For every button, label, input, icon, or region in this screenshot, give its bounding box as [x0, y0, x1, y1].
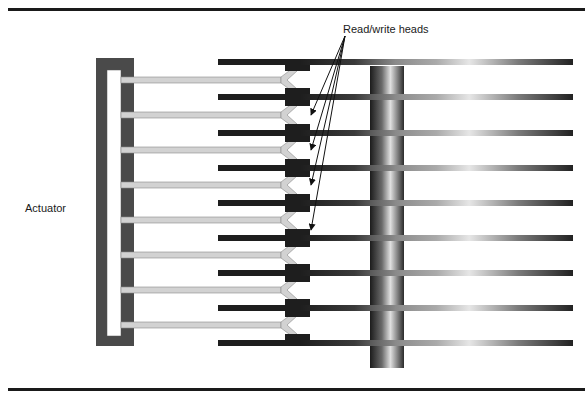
arm-1 [121, 68, 297, 92]
actuator-slot [107, 70, 121, 336]
callout-arrow-1 [311, 36, 345, 115]
arm-4 [121, 173, 297, 197]
platter-4 [300, 165, 573, 171]
callout-arrow-3 [311, 36, 345, 185]
platter-9 [300, 340, 573, 346]
platter-stack-front [300, 59, 573, 346]
platter-8 [300, 305, 573, 311]
arm-5 [121, 208, 297, 232]
arm-7 [121, 278, 297, 302]
arm-2 [121, 103, 297, 127]
head-pair-9 [285, 334, 310, 340]
arm-3 [121, 138, 297, 162]
spindle [370, 66, 404, 368]
platter-2 [300, 94, 573, 100]
arm-8 [121, 313, 297, 337]
top-rule [8, 8, 585, 11]
head-pair-1 [285, 65, 310, 71]
arm-6 [121, 243, 297, 267]
platter-5 [300, 200, 573, 206]
platter-7 [300, 270, 573, 276]
heads-label: Read/write heads [343, 23, 429, 35]
hdd-diagram [0, 0, 585, 398]
platter-6 [300, 235, 573, 241]
actuator [96, 58, 134, 346]
actuator-label: Actuator [25, 202, 66, 214]
bottom-rule [8, 388, 585, 391]
platter-3 [300, 130, 573, 136]
